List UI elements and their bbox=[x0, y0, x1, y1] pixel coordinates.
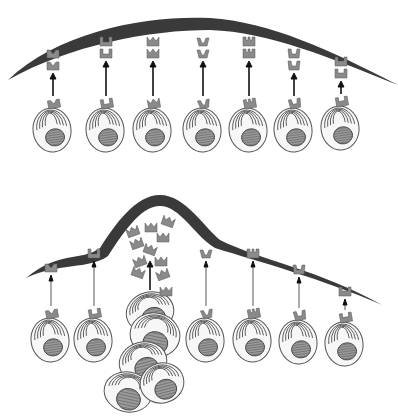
panel-bottom bbox=[26, 195, 382, 417]
secretion-arrow-icon bbox=[50, 73, 56, 96]
secretion-arrow-icon bbox=[297, 277, 301, 308]
receptor-icon bbox=[156, 268, 170, 281]
receptor-icon bbox=[197, 50, 209, 58]
receptor-icon bbox=[197, 99, 210, 109]
diagram-canvas bbox=[0, 0, 398, 420]
receptor-icon bbox=[247, 308, 260, 319]
receptor-icon bbox=[131, 266, 145, 279]
receptor-icon bbox=[147, 37, 159, 46]
receptor-icon bbox=[200, 250, 212, 258]
receptor-icon bbox=[161, 215, 175, 228]
cell bbox=[180, 106, 224, 155]
secretion-arrow-icon bbox=[49, 275, 53, 306]
cell bbox=[230, 316, 274, 365]
receptor-icon bbox=[88, 308, 101, 319]
cell bbox=[322, 320, 366, 369]
cell bbox=[226, 106, 270, 155]
receptor-icon bbox=[335, 96, 348, 107]
receptor-icon bbox=[339, 312, 352, 323]
cell bbox=[30, 106, 74, 155]
panel-top bbox=[8, 18, 398, 155]
receptor-icon bbox=[147, 98, 160, 109]
receptor-icon bbox=[335, 69, 347, 78]
clonal-selection-diagram bbox=[0, 0, 398, 420]
receptor-icon bbox=[145, 223, 157, 232]
receptor-icon bbox=[243, 98, 256, 109]
cell bbox=[183, 316, 227, 365]
cell bbox=[83, 106, 127, 155]
receptor-icon bbox=[133, 255, 147, 268]
secretion-arrow-icon bbox=[150, 61, 156, 96]
receptor-icon bbox=[200, 309, 213, 319]
receptor-icon bbox=[288, 61, 300, 70]
tissue-surface bbox=[26, 195, 382, 305]
receptor-icon bbox=[288, 49, 300, 58]
receptor-icon bbox=[47, 99, 60, 109]
secretion-arrow-icon bbox=[246, 61, 252, 96]
receptor-icon bbox=[100, 49, 112, 58]
cell bbox=[276, 318, 320, 367]
cell bbox=[271, 106, 315, 155]
secretion-arrow-icon bbox=[200, 61, 206, 96]
receptor-icon bbox=[143, 243, 157, 256]
cell bbox=[318, 104, 362, 153]
secretion-arrow-icon bbox=[204, 261, 208, 306]
cell bbox=[71, 316, 115, 365]
receptor-icon bbox=[147, 49, 159, 58]
receptor-icon bbox=[243, 37, 255, 46]
receptor-icon bbox=[47, 62, 59, 70]
secretion-arrow-icon bbox=[147, 261, 153, 290]
receptor-icon bbox=[130, 237, 144, 250]
receptor-icon bbox=[293, 310, 306, 321]
receptor-icon bbox=[197, 38, 209, 46]
secretion-arrow-icon bbox=[338, 81, 344, 94]
receptor-icon bbox=[155, 257, 167, 266]
receptor-icon bbox=[157, 233, 169, 242]
secretion-arrow-icon bbox=[343, 299, 347, 310]
secretion-arrow-icon bbox=[92, 261, 96, 306]
secretion-arrow-icon bbox=[291, 73, 297, 96]
cell bbox=[130, 106, 174, 155]
secretion-arrow-icon bbox=[251, 261, 255, 306]
receptor-icon bbox=[288, 98, 301, 109]
receptor-icon bbox=[247, 249, 259, 258]
cell bbox=[28, 316, 72, 365]
secretion-arrow-icon bbox=[103, 61, 109, 96]
receptor-icon bbox=[100, 98, 113, 109]
receptor-icon bbox=[243, 49, 255, 58]
receptor-icon bbox=[45, 309, 58, 319]
receptor-icon bbox=[160, 287, 172, 296]
